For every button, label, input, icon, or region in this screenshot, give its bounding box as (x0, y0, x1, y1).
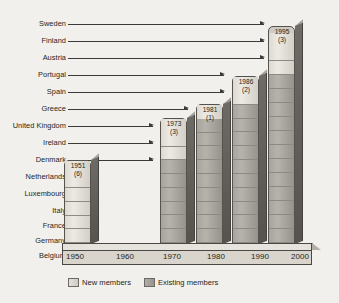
bar-1981: 1981 (1) (196, 104, 223, 244)
x-tick-1950: 1950 (58, 252, 92, 261)
chart-legend: New members Existing members (68, 278, 225, 287)
legend-swatch-new-icon (68, 278, 79, 287)
leader-line (68, 24, 264, 25)
country-label: Portugal (0, 69, 68, 81)
leader-line (68, 126, 153, 127)
legend-label-existing: Existing members (158, 278, 218, 287)
bar-note-year: 1951 (66, 162, 90, 170)
x-tick-1990: 1990 (243, 252, 277, 261)
country-row-sweden: Sweden (0, 18, 264, 30)
axis-baseline (62, 243, 313, 244)
bar-note-year: 1995 (270, 28, 294, 36)
country-row-ireland: Ireland (0, 137, 153, 149)
bar-side (91, 157, 99, 244)
leader-line (68, 143, 153, 144)
country-label: Sweden (0, 18, 68, 30)
bar-1986: 1986 (2) (232, 76, 259, 244)
country-label: France (0, 220, 68, 232)
country-label: Ireland (0, 137, 68, 149)
bar-note-count: (3) (270, 36, 294, 44)
bar-note-count: (6) (66, 170, 90, 178)
bar-note-1951: 1951 (6) (66, 162, 90, 177)
country-row-italy: Italy (0, 205, 70, 217)
country-label: Austria (0, 52, 68, 64)
bar-note-count: (2) (234, 86, 258, 94)
bar-note-1986: 1986 (2) (234, 78, 258, 93)
x-tick-1980: 1980 (199, 252, 233, 261)
country-row-finland: Finland (0, 35, 264, 47)
x-tick-2000: 2000 (283, 252, 317, 261)
x-tick-1970: 1970 (155, 252, 189, 261)
country-label: Italy (0, 205, 68, 217)
bar-note-count: (1) (198, 114, 222, 122)
country-row-portugal: Portugal (0, 69, 224, 81)
country-label: Luxembourg (0, 188, 68, 200)
axis-floor-side (312, 243, 321, 250)
leader-line (68, 41, 264, 42)
country-label: Netherlands (0, 171, 68, 183)
country-label: United Kingdom (0, 120, 68, 132)
bar-1951: 1951 (6) (64, 160, 91, 244)
bar-stack-1981 (196, 104, 223, 244)
country-row-france: France (0, 220, 70, 232)
legend-swatch-existing-icon (144, 278, 155, 287)
country-row-greece: Greece (0, 103, 188, 115)
country-label: Finland (0, 35, 68, 47)
bar-1995: 1995 (3) (268, 26, 295, 244)
country-label: Germany (0, 235, 68, 247)
country-row-luxembourg: Luxembourg (0, 188, 70, 200)
bar-note-1995: 1995 (3) (270, 28, 294, 43)
country-row-germany: Germany (0, 235, 70, 247)
country-row-netherlands: Netherlands (0, 171, 70, 183)
bar-side (295, 23, 303, 244)
country-label: Denmark (0, 154, 68, 166)
leader-line (68, 58, 264, 59)
country-label: Spain (0, 86, 68, 98)
country-label: Greece (0, 103, 68, 115)
leader-line (68, 109, 188, 110)
bar-1973: 1973 (3) (160, 118, 187, 244)
bar-side (223, 101, 231, 244)
leader-line (68, 75, 224, 76)
bar-note-year: 1986 (234, 78, 258, 86)
legend-label-new: New members (82, 278, 131, 287)
country-row-austria: Austria (0, 52, 264, 64)
country-row-united-kingdom: United Kingdom (0, 120, 153, 132)
bar-stack-1973 (160, 118, 187, 244)
bar-note-count: (3) (162, 128, 186, 136)
bar-stack-1986 (232, 76, 259, 244)
leader-line (68, 92, 224, 93)
bar-note-1981: 1981 (1) (198, 106, 222, 121)
bar-note-1973: 1973 (3) (162, 120, 186, 135)
bar-stack-1995 (268, 26, 295, 244)
legend-item-new-members: New members (68, 278, 131, 287)
x-tick-1960: 1960 (108, 252, 142, 261)
bar-note-year: 1973 (162, 120, 186, 128)
eu-enlargement-chart: Sweden Finland Austria Portugal Spain Gr… (0, 0, 339, 303)
country-row-spain: Spain (0, 86, 224, 98)
legend-item-existing-members: Existing members (144, 278, 218, 287)
bar-note-year: 1981 (198, 106, 222, 114)
bar-side (259, 73, 267, 244)
bar-side (187, 115, 195, 244)
